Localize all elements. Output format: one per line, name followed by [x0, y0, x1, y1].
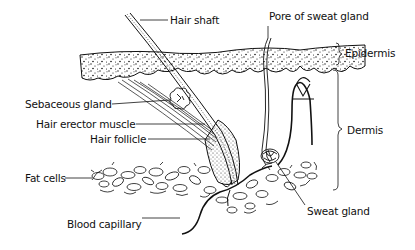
label-hair-erector-muscle: Hair erector muscle: [36, 118, 136, 130]
label-blood-capillary: Blood capillary: [67, 218, 142, 230]
label-fat-cells: Fat cells: [25, 172, 66, 184]
nerve-ending: [278, 78, 314, 165]
label-hair-shaft: Hair shaft: [170, 14, 219, 26]
sebaceous-gland: [170, 88, 190, 109]
label-epidermis: Epidermis: [345, 47, 395, 59]
label-sebaceous-gland: Sebaceous gland: [25, 98, 112, 110]
hair: [125, 13, 240, 187]
leader-sweat-gland: [276, 162, 305, 205]
sweat-gland: [261, 149, 279, 168]
leader-sebaceous: [112, 100, 170, 104]
label-dermis: Dermis: [347, 124, 383, 136]
dermis-bracket: [333, 70, 342, 190]
label-pore-of-sweat-gland: Pore of sweat gland: [269, 10, 369, 22]
skin-diagram: Hair shaft Pore of sweat gland Epidermis…: [0, 0, 415, 250]
label-hair-follicle: Hair follicle: [90, 133, 146, 145]
epidermis-layer: [80, 45, 365, 80]
label-sweat-gland: Sweat gland: [307, 205, 370, 217]
